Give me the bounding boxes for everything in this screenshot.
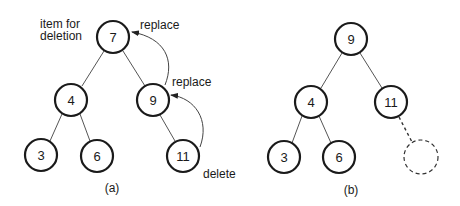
edge-9-11 — [160, 115, 175, 141]
replace-label-mid: replace — [172, 75, 212, 89]
node-b-4: 4 — [295, 86, 327, 118]
node-a-7: 7 — [97, 21, 129, 53]
edge-7-9 — [123, 51, 145, 86]
item-for-deletion-label-line2: deletion — [40, 29, 82, 43]
replace-label-top: replace — [140, 18, 180, 32]
edge-7-4 — [82, 51, 104, 86]
svg-text:11: 11 — [384, 95, 398, 110]
node-a-9: 9 — [137, 84, 169, 116]
svg-text:9: 9 — [347, 32, 354, 47]
svg-text:3: 3 — [37, 148, 44, 163]
edge-b-9-11 — [360, 53, 382, 88]
replace-arrow-9-to-7 — [132, 32, 169, 85]
caption-a: (a) — [105, 181, 120, 195]
svg-text:6: 6 — [335, 150, 342, 165]
edge-4-3 — [50, 114, 62, 141]
node-b-6: 6 — [323, 141, 355, 173]
svg-text:3: 3 — [280, 150, 287, 165]
svg-text:4: 4 — [307, 95, 314, 110]
edge-b-4-6 — [319, 116, 331, 143]
svg-text:6: 6 — [93, 149, 100, 164]
svg-text:11: 11 — [176, 149, 190, 164]
removed-node-placeholder — [404, 140, 438, 174]
edge-b-9-4 — [321, 53, 342, 88]
replace-arrow-11-to-9 — [171, 95, 203, 147]
node-b-11: 11 — [375, 86, 407, 118]
svg-text:7: 7 — [109, 30, 116, 45]
delete-label: delete — [203, 167, 236, 181]
edge-b-4-3 — [292, 116, 302, 143]
node-a-11: 11 — [167, 140, 199, 172]
edge-b-11-removed — [399, 117, 412, 142]
svg-text:9: 9 — [149, 93, 156, 108]
node-a-3: 3 — [25, 139, 57, 171]
node-b-3: 3 — [268, 141, 300, 173]
node-b-9: 9 — [335, 23, 367, 55]
tree-deletion-diagram: 7 4 9 3 6 11 item for deletion replace r… — [0, 0, 460, 206]
edge-4-6 — [80, 114, 90, 141]
caption-b: (b) — [344, 183, 359, 197]
node-a-6: 6 — [81, 140, 113, 172]
svg-text:4: 4 — [67, 93, 74, 108]
node-a-4: 4 — [55, 84, 87, 116]
